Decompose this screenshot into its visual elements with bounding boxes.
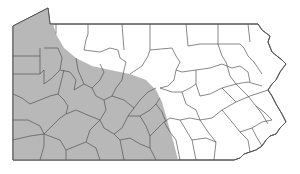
pennsylvania-county-map	[0, 0, 300, 174]
